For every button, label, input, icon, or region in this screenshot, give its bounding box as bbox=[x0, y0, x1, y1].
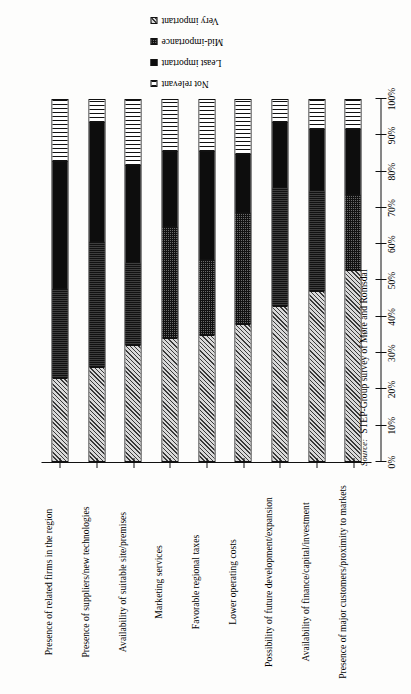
bar-segment bbox=[199, 151, 214, 259]
bar-segment bbox=[309, 129, 324, 190]
figure-canvas: 0%10%20%30%40%50%60%70%80%90%100% Not re… bbox=[0, 0, 411, 694]
bar-segment bbox=[272, 306, 287, 461]
value-axis-tick bbox=[375, 388, 386, 389]
category-tick bbox=[133, 458, 134, 468]
chart-stage: 0%10%20%30%40%50%60%70%80%90%100% Not re… bbox=[0, 0, 411, 694]
category-tick bbox=[206, 458, 207, 468]
category-tick bbox=[243, 458, 244, 468]
bar-segment bbox=[235, 100, 250, 154]
category-tick bbox=[59, 458, 60, 468]
bar-segment bbox=[52, 100, 67, 161]
category-label: Presence of related firms in the region bbox=[42, 468, 54, 694]
legend: Not relevantLeast importantMid-importanc… bbox=[150, 6, 223, 90]
category-label: Lower operating costs bbox=[226, 468, 238, 694]
category-tick bbox=[353, 458, 354, 468]
bar-segment bbox=[272, 100, 287, 122]
bar-segment bbox=[125, 100, 140, 165]
stacked-bar[interactable] bbox=[124, 99, 141, 462]
bar-segment bbox=[162, 100, 177, 151]
bar-segment bbox=[52, 378, 67, 461]
legend-entry[interactable]: Least important bbox=[150, 57, 221, 69]
legend-label: Mid-importance bbox=[161, 36, 223, 48]
value-axis-tick bbox=[375, 171, 386, 172]
category-label: Marketing services bbox=[152, 468, 164, 694]
bar-segment bbox=[199, 335, 214, 461]
legend-swatch bbox=[150, 60, 157, 67]
bar-segment bbox=[199, 259, 214, 335]
bar-segment bbox=[309, 291, 324, 461]
bar-segment bbox=[235, 154, 250, 212]
legend-entry[interactable]: Not relevant bbox=[150, 78, 208, 90]
bar-segment bbox=[89, 100, 104, 122]
stacked-bar[interactable] bbox=[308, 99, 325, 462]
bar-segment bbox=[52, 288, 67, 378]
plot-area bbox=[41, 99, 371, 462]
bar-row bbox=[88, 99, 105, 462]
bar-row bbox=[161, 99, 178, 462]
category-tick bbox=[316, 458, 317, 468]
category-label: Availability of finance/capital/investme… bbox=[299, 468, 311, 694]
bar-segment bbox=[162, 151, 177, 227]
bar-segment bbox=[52, 161, 67, 287]
source-note: Source:STEP-Group survey of Møre and Rom… bbox=[358, 236, 369, 466]
value-axis-tick bbox=[375, 352, 386, 353]
value-axis-tick bbox=[375, 461, 386, 462]
legend-entry[interactable]: Mid-importance bbox=[150, 36, 223, 48]
value-axis-tick bbox=[375, 243, 386, 244]
source-text: STEP-Group survey of Møre and Romsdal bbox=[358, 269, 369, 433]
bar-segment bbox=[272, 122, 287, 187]
value-axis-tick bbox=[375, 425, 386, 426]
value-axis-tick bbox=[375, 134, 386, 135]
source-label: Source: bbox=[360, 439, 369, 466]
category-tick bbox=[96, 458, 97, 468]
bar-segment bbox=[162, 226, 177, 338]
bar-segment bbox=[125, 165, 140, 262]
legend-label: Not relevant bbox=[161, 78, 208, 90]
bar-segment bbox=[235, 212, 250, 324]
bar-segment bbox=[125, 262, 140, 345]
value-axis-tick-label: 100% bbox=[386, 77, 396, 121]
bar-row bbox=[234, 99, 251, 462]
bar-segment bbox=[125, 345, 140, 461]
stacked-bar[interactable] bbox=[234, 99, 251, 462]
stacked-bar[interactable] bbox=[271, 99, 288, 462]
value-axis-tick bbox=[375, 316, 386, 317]
legend-label: Least important bbox=[161, 57, 221, 69]
value-axis-tick bbox=[375, 280, 386, 281]
bar-row bbox=[308, 99, 325, 462]
value-axis-line bbox=[380, 99, 381, 462]
stacked-bar[interactable] bbox=[198, 99, 215, 462]
bar-segment bbox=[89, 241, 104, 367]
legend-swatch bbox=[150, 81, 157, 88]
bar-row bbox=[124, 99, 141, 462]
category-label: Favorable regional taxes bbox=[189, 468, 201, 694]
legend-entry[interactable]: Very important bbox=[150, 15, 218, 27]
bar-segment bbox=[272, 187, 287, 306]
value-axis-tick bbox=[375, 98, 386, 99]
legend-swatch bbox=[150, 39, 157, 46]
bar-segment bbox=[199, 100, 214, 151]
stacked-bar[interactable] bbox=[88, 99, 105, 462]
bar-segment bbox=[309, 190, 324, 291]
category-tick bbox=[169, 458, 170, 468]
bar-segment bbox=[162, 338, 177, 461]
category-label: Presence of major customers/proximity to… bbox=[336, 468, 348, 694]
bar-row bbox=[198, 99, 215, 462]
bar-row bbox=[271, 99, 288, 462]
category-label: Presence of suppliers/new technologies bbox=[79, 468, 91, 694]
bar-row bbox=[51, 99, 68, 462]
bar-segment bbox=[235, 324, 250, 461]
category-label: Availability of suitable site/premises bbox=[116, 468, 128, 694]
stacked-bar[interactable] bbox=[161, 99, 178, 462]
bar-segment bbox=[89, 367, 104, 461]
bar-segment bbox=[345, 100, 360, 129]
bar-segment bbox=[89, 122, 104, 241]
bar-segment bbox=[309, 100, 324, 129]
category-label: Possibility of future development/expans… bbox=[262, 468, 274, 694]
category-tick bbox=[279, 458, 280, 468]
bar-segment bbox=[345, 129, 360, 194]
legend-swatch bbox=[150, 18, 157, 25]
legend-label: Very important bbox=[161, 15, 218, 27]
value-axis-tick bbox=[375, 207, 386, 208]
stacked-bar[interactable] bbox=[51, 99, 68, 462]
